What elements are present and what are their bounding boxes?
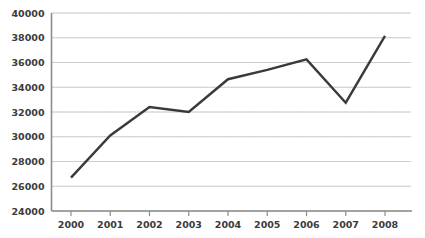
x-axis-tick-label: 2004 xyxy=(215,219,242,230)
y-axis-tick-label: 24000 xyxy=(11,206,44,217)
chart-background xyxy=(0,0,425,238)
x-axis-tick-label: 2003 xyxy=(176,219,202,230)
y-axis-tick-label: 38000 xyxy=(11,32,44,43)
x-axis-tick-label: 2001 xyxy=(97,219,123,230)
line-chart: 2400026000280003000032000340003600038000… xyxy=(0,0,425,238)
y-axis-tick-label: 30000 xyxy=(11,131,44,142)
chart-canvas: 2400026000280003000032000340003600038000… xyxy=(0,0,425,238)
x-axis-tick-label: 2008 xyxy=(372,219,399,230)
y-axis-tick-label: 36000 xyxy=(11,57,44,68)
x-axis-tick-labels: 200020012002200320042005200620072008 xyxy=(58,219,399,230)
y-axis-tick-label: 32000 xyxy=(11,107,44,118)
x-axis-tick-label: 2007 xyxy=(333,219,359,230)
x-axis-tick-label: 2006 xyxy=(293,219,320,230)
x-axis-tick-label: 2000 xyxy=(58,219,85,230)
y-axis-tick-label: 26000 xyxy=(11,181,44,192)
x-axis-tick-label: 2005 xyxy=(254,219,280,230)
y-axis-tick-labels: 2400026000280003000032000340003600038000… xyxy=(11,8,44,217)
y-axis-tick-label: 28000 xyxy=(11,156,44,167)
y-axis-tick-label: 40000 xyxy=(11,8,44,19)
x-axis-tick-label: 2002 xyxy=(136,219,162,230)
y-axis-tick-label: 34000 xyxy=(11,82,44,93)
